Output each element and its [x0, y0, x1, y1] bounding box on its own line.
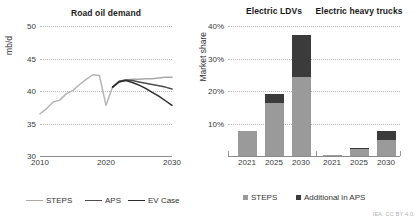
- bar-x-tick-truck-2030: 2030: [377, 158, 395, 167]
- bar-legend-item-steps[interactable]: STEPS: [243, 193, 277, 202]
- line-chart-plot-area: 50 45 40 35 30 2010 2020 2030: [40, 26, 172, 156]
- bar-truck-2021[interactable]: [323, 155, 342, 156]
- legend-swatch-icon-additional-aps: [296, 195, 301, 200]
- bar-segment-steps: [350, 148, 369, 156]
- bar-legend-item-additional-aps[interactable]: Additional in APS: [296, 193, 365, 202]
- bar-truck-2025[interactable]: [350, 148, 369, 156]
- line-chart-y-axis-label: mb/d: [4, 36, 14, 55]
- legend-item-ev-case[interactable]: EV Case: [128, 196, 180, 205]
- bar-truck-2030[interactable]: [377, 131, 396, 156]
- legend-label-aps: APS: [105, 196, 121, 205]
- bar-chart-plot-area: 40% 30% 20% 10% Electric LDVs Electric h…: [228, 26, 400, 156]
- bar-ldv-2021[interactable]: [238, 131, 257, 156]
- x-tick-2020: 2020: [97, 158, 115, 167]
- bar-legend-label-steps: STEPS: [251, 193, 277, 202]
- bar-chart-y-axis-label: Market share: [198, 32, 208, 82]
- bar-x-tick-ldv-2030: 2030: [292, 158, 310, 167]
- bar-group-title-trucks: Electric heavy trucks: [315, 6, 402, 16]
- bar-chart-panel: Market share 40% 30% 20% 10% Electric LD…: [196, 0, 419, 220]
- y-tick-40pct: 40%: [208, 22, 224, 31]
- legend-item-steps[interactable]: STEPS: [26, 196, 72, 205]
- bar-segment-additional-aps: [377, 131, 396, 140]
- legend-swatch-icon-steps: [243, 195, 248, 200]
- line-chart-series-svg: [40, 26, 172, 156]
- bar-ldv-2030[interactable]: [292, 35, 311, 156]
- bar-x-tick-truck-2025: 2025: [350, 158, 368, 167]
- y-tick-40: 40: [27, 87, 36, 96]
- line-series-historical: [40, 75, 113, 114]
- y-tick-30pct: 30%: [208, 54, 224, 63]
- bar-segment-additional-aps: [292, 35, 311, 77]
- bar-x-axis-line: [228, 156, 400, 157]
- y-tick-50: 50: [27, 22, 36, 31]
- bar-group-title-ldvs: Electric LDVs: [246, 6, 302, 16]
- bar-segment-steps: [265, 103, 284, 156]
- bar-segment-additional-aps: [265, 94, 284, 103]
- figure-container: Road oil demand mb/d 50 45 40 35 30 2010…: [0, 0, 419, 220]
- group-tick-right: [400, 151, 401, 156]
- bar-segment-steps: [238, 131, 257, 156]
- y-tick-10pct: 10%: [208, 119, 224, 128]
- bar-segment-steps: [377, 140, 396, 156]
- legend-line-icon-ev-case: [128, 200, 145, 201]
- legend-label-ev-case: EV Case: [148, 196, 180, 205]
- legend-item-aps[interactable]: APS: [85, 196, 121, 205]
- bar-ldv-2025[interactable]: [265, 94, 284, 156]
- x-tick-2010: 2010: [31, 158, 49, 167]
- bar-legend-label-additional-aps: Additional in APS: [304, 193, 365, 202]
- bar-segment-steps: [292, 77, 311, 156]
- line-series-ev-case: [113, 81, 172, 106]
- bar-x-tick-truck-2021: 2021: [323, 158, 341, 167]
- y-tick-45: 45: [27, 54, 36, 63]
- y-tick-35: 35: [27, 119, 36, 128]
- bar-x-tick-ldv-2021: 2021: [238, 158, 256, 167]
- attribution-credit: IEA. CC BY 4.0.: [373, 211, 415, 217]
- y-tick-20pct: 20%: [208, 87, 224, 96]
- bar-segment-steps: [323, 155, 342, 156]
- legend-line-icon-steps: [26, 200, 43, 201]
- x-tick-2030: 2030: [163, 158, 181, 167]
- line-chart-panel: Road oil demand mb/d 50 45 40 35 30 2010…: [0, 0, 196, 220]
- bar-x-tick-ldv-2025: 2025: [265, 158, 283, 167]
- line-chart-title: Road oil demand: [40, 8, 172, 18]
- bar-series-container: [228, 26, 400, 156]
- x-axis-line: [40, 156, 172, 157]
- legend-label-steps: STEPS: [46, 196, 72, 205]
- legend-line-icon-aps: [85, 200, 102, 201]
